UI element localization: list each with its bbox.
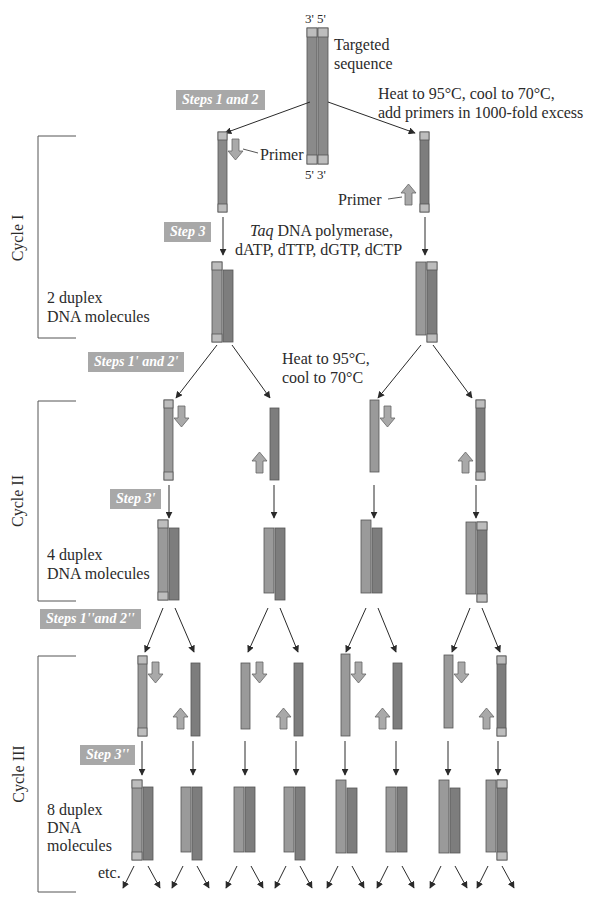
strand-ends-bottom-label: 5' 3' xyxy=(305,166,326,184)
cycle3-duplex-2 xyxy=(181,787,202,860)
polymerase-text: DNA polymerase, xyxy=(273,222,393,239)
continuation-arrows xyxy=(123,866,514,888)
primer-down-arrow-icon xyxy=(252,662,267,683)
cycle1-result-line1: 2 duplex xyxy=(47,289,103,307)
targeted-sequence-label-line2: sequence xyxy=(334,55,393,73)
cycle1-label: Cycle I xyxy=(9,208,27,268)
targeted-sequence-label-line1: Targeted xyxy=(334,36,389,54)
pcr-diagram-graphics xyxy=(0,0,601,906)
primer-down-arrow-icon xyxy=(174,406,189,427)
step-badge-1-2: Steps 1 and 2 xyxy=(176,90,265,110)
cycle3-duplex-8 xyxy=(486,780,507,860)
primer-down-arrow-icon xyxy=(454,662,469,683)
cycle1-result-line2: DNA molecules xyxy=(47,308,150,326)
cycle2-strand-1 xyxy=(164,400,173,480)
cycle2-label: Cycle II xyxy=(9,471,27,531)
cycle1-strand-left xyxy=(218,132,227,212)
cycle1-strand-right xyxy=(420,132,429,212)
step-badge-1p-2p: Steps 1' and 2' xyxy=(88,352,184,372)
cycle3-duplex-7 xyxy=(439,780,460,853)
heat-instructions-line1: Heat to 95°C, cool to 70°C, xyxy=(378,85,555,103)
cycle3-strand-3 xyxy=(241,663,250,729)
cycle2-strand-3 xyxy=(370,400,379,472)
primer-up-arrow-icon xyxy=(479,708,494,729)
cycle3-label: Cycle III xyxy=(10,739,28,809)
cycle3-duplex-4 xyxy=(284,787,305,860)
cycle3-strand-8 xyxy=(497,656,506,736)
cycle3-duplex-3 xyxy=(234,787,255,852)
primer-down-arrow-icon xyxy=(351,662,366,683)
cycle3-strand-7 xyxy=(444,655,453,728)
primer-label-right: Primer xyxy=(338,191,382,209)
heat2-line2: cool to 70°C xyxy=(282,369,363,387)
cycle3-bracket xyxy=(38,656,76,892)
targeted-duplex xyxy=(307,28,328,164)
taq-italic: Taq xyxy=(250,222,273,239)
step-badge-1pp-2pp: Steps 1''and 2'' xyxy=(40,609,141,629)
cycle2-strand-2 xyxy=(270,408,279,480)
strand-ends-top-label: 3' 5' xyxy=(305,10,326,28)
cycle3-result-line3: molecules xyxy=(47,837,112,855)
cycle2-strand-4 xyxy=(476,400,485,480)
cycle3-strand-1 xyxy=(138,656,147,736)
cycle2-duplex-3 xyxy=(361,520,382,593)
primer-down-arrow-icon xyxy=(148,662,163,683)
primer-up-arrow-icon xyxy=(401,184,416,205)
cycle3-strand-4 xyxy=(294,663,303,736)
cycle3-strand-5 xyxy=(341,654,350,736)
polymerase-label: Taq DNA polymerase, xyxy=(250,222,393,240)
cycle1-duplex-left xyxy=(212,262,233,342)
cycle1-duplex-right xyxy=(416,262,437,342)
cycle3-duplex-5 xyxy=(336,780,357,853)
cycle3-strand-6 xyxy=(393,663,402,729)
pcr-diagram: 3' 5' 5' 3' Targeted sequence Heat to 95… xyxy=(0,0,601,906)
cycle3-result-line2: DNA xyxy=(47,819,82,837)
primer-up-arrow-icon xyxy=(375,708,390,729)
cycle3-duplex-1 xyxy=(132,780,153,860)
cycle2-result-line1: 4 duplex xyxy=(47,546,103,564)
primer-up-arrow-icon xyxy=(252,452,267,473)
heat2-line1: Heat to 95°C, xyxy=(282,350,370,368)
cycle2-duplex-1 xyxy=(158,520,179,600)
step-badge-3p: Step 3' xyxy=(110,489,161,509)
cycle3-result-line1: 8 duplex xyxy=(47,801,103,819)
step-badge-3: Step 3 xyxy=(164,222,211,242)
primer-label-left: Primer xyxy=(260,146,304,164)
cycle3-duplex-6 xyxy=(386,787,407,852)
heat-instructions-line2: add primers in 1000-fold excess xyxy=(378,104,583,122)
step-badge-3pp: Step 3'' xyxy=(80,745,135,765)
cycle2-duplex-2 xyxy=(264,528,285,600)
cycle3-strand-2 xyxy=(191,663,200,736)
primer-down-arrow-icon xyxy=(228,139,243,160)
primer-up-arrow-icon xyxy=(458,452,473,473)
etc-label: etc. xyxy=(98,864,121,882)
primer-up-arrow-icon xyxy=(173,708,188,729)
cycle2-result-line2: DNA molecules xyxy=(47,565,150,583)
dntps-label: dATP, dTTP, dGTP, dCTP xyxy=(235,241,402,259)
primer-down-arrow-icon xyxy=(380,406,395,427)
cycle2-duplex-4 xyxy=(466,522,487,602)
primer-up-arrow-icon xyxy=(276,708,291,729)
